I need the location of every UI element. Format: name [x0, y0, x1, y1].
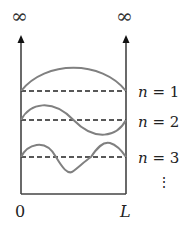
mode-val: 2: [170, 113, 180, 131]
mode-var: n: [138, 83, 148, 101]
x-axis-right-label: L: [120, 204, 131, 220]
mode-val: 1: [170, 83, 180, 101]
mode-var: n: [138, 149, 148, 167]
mode-label-n2: n = 2: [138, 115, 179, 130]
mode-val: 3: [170, 149, 180, 167]
x-axis-left-label: 0: [15, 204, 25, 220]
mode-eq: =: [152, 83, 165, 101]
continuation-ellipsis: ⋮: [157, 175, 171, 189]
mode-label-n1: n = 1: [138, 85, 179, 100]
mode-label-n3: n = 3: [138, 151, 179, 166]
right-wall-arrow-icon: [123, 35, 130, 43]
mode-var: n: [138, 113, 148, 131]
left-wall-arrow-icon: [18, 35, 25, 43]
mode-eq: =: [152, 149, 165, 167]
left-infinity-label: ∞: [11, 6, 28, 26]
wave-n1: [21, 68, 126, 91]
mode-eq: =: [152, 113, 165, 131]
right-infinity-label: ∞: [116, 6, 133, 26]
